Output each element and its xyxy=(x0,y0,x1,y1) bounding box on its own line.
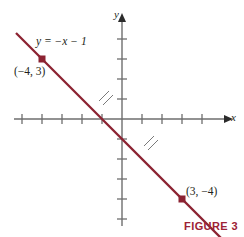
point-marker-a xyxy=(39,56,46,63)
figure-caption: FIGURE 3 xyxy=(184,220,238,232)
hash-marks-lower xyxy=(144,136,158,150)
y-axis-arrowhead xyxy=(118,13,126,22)
function-line xyxy=(16,33,222,237)
point-label-3-minus4: (3, −4) xyxy=(186,186,217,198)
point-marker-b xyxy=(179,196,186,203)
hash-marks-upper xyxy=(99,91,113,105)
equation-label: y = −x − 1 xyxy=(36,36,87,48)
axis-label-y: y xyxy=(114,9,119,20)
point-label-minus4-3: (−4, 3) xyxy=(14,66,45,78)
axis-label-x: x xyxy=(231,112,236,123)
figure-container: y x y = −x − 1 (−4, 3) (3, −4) FIGURE 3 xyxy=(0,0,244,237)
